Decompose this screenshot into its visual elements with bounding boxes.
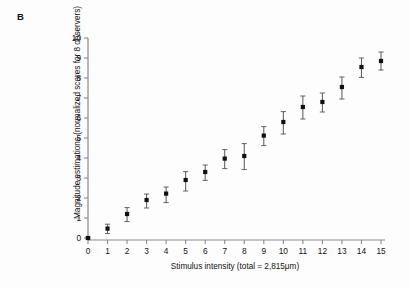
x-tick-label: 8 [242,246,247,256]
y-tick-label: 8 [76,73,81,83]
x-axis-ticks: 0123456789101112131415 [86,240,386,256]
x-tick-label: 5 [183,246,188,256]
data-point-marker [105,227,109,231]
data-point-marker [125,212,129,216]
data-point-marker [164,192,168,196]
data-point-marker [281,120,285,124]
x-tick-label: 11 [299,246,308,256]
data-point-marker [379,59,383,63]
y-axis-ticks: 012345678910 [72,33,88,243]
data-point-marker [242,154,246,158]
data-point-marker [262,134,266,138]
data-point-marker [203,170,207,174]
y-tick-label: 9 [76,53,81,63]
y-tick-label: 5 [76,133,81,143]
data-point-marker [223,157,227,161]
data-point-marker [184,178,188,182]
data-point-marker [340,85,344,89]
scatter-plot: 012345678910 0123456789101112131415 [0,0,410,289]
x-tick-label: 13 [337,246,347,256]
x-tick-label: 12 [318,246,328,256]
data-point-marker [301,105,305,109]
x-tick-label: 7 [222,246,227,256]
data-point-marker [320,100,324,104]
data-point-marker [145,198,149,202]
x-tick-label: 2 [125,246,130,256]
figure-panel-b: B Magnitude estimations (normalized scor… [0,0,410,289]
axes [88,38,385,240]
error-bars [85,52,383,239]
data-point-marker [86,236,90,240]
x-tick-label: 15 [376,246,386,256]
y-tick-label: 6 [76,113,81,123]
data-markers [86,59,383,240]
y-tick-label: 1 [76,213,81,223]
x-tick-label: 6 [203,246,208,256]
y-tick-label: 0 [76,233,81,243]
x-tick-label: 3 [144,246,149,256]
y-tick-label: 10 [72,33,82,43]
x-tick-label: 1 [105,246,110,256]
data-point-marker [359,65,363,69]
y-tick-label: 7 [76,93,81,103]
x-tick-label: 9 [261,246,266,256]
x-tick-label: 0 [86,246,91,256]
x-tick-label: 4 [164,246,169,256]
x-tick-label: 10 [279,246,289,256]
x-axis-label: Stimulus intensity (total = 2,815μm) [88,262,382,271]
y-tick-label: 3 [76,173,81,183]
y-tick-label: 2 [76,193,81,203]
y-tick-label: 4 [76,153,81,163]
x-tick-label: 14 [357,246,367,256]
